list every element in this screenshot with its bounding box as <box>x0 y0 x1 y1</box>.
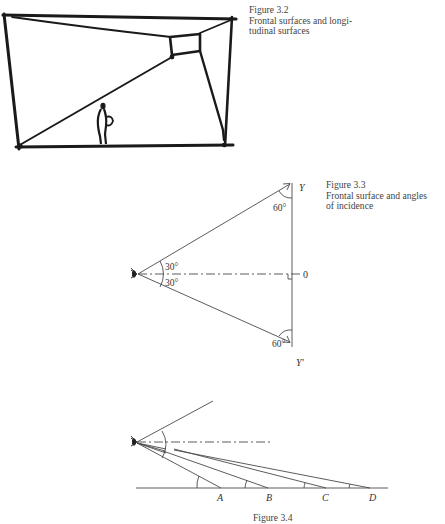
figure-3-4-caption: Figure 3.4 <box>253 513 292 524</box>
figure-3-4-diagram: A B C D <box>0 0 445 524</box>
eye-icon <box>131 436 137 446</box>
figure-number: Figure 3.4 <box>253 513 292 524</box>
label-point-d: D <box>368 492 377 503</box>
label-point-a: A <box>216 492 224 503</box>
label-point-c: C <box>322 492 329 503</box>
label-point-b: B <box>266 492 272 503</box>
